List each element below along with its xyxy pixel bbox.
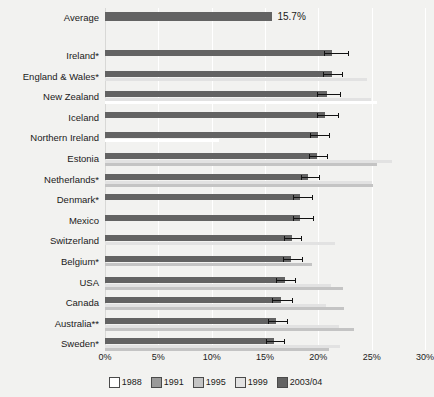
bar-group: [105, 132, 425, 148]
bar-group: [105, 91, 425, 107]
bar-2003-04: [105, 277, 285, 283]
error-bar-cap-low: [272, 298, 273, 303]
bar-1995: [105, 287, 343, 290]
bar-group: [105, 235, 425, 251]
error-bar-cap-high: [302, 257, 303, 262]
bar-group: [105, 256, 425, 272]
bar-group: [105, 153, 425, 169]
category-label-average: Average: [0, 13, 99, 23]
bar-2003-04: [105, 132, 318, 138]
error-bar-cap-low: [310, 133, 311, 138]
error-bar-line: [310, 135, 329, 136]
error-bar-line: [266, 341, 284, 342]
category-label: New Zealand: [0, 92, 99, 102]
bar-group: [105, 215, 425, 231]
bar-group: [105, 297, 425, 313]
bar-group: [105, 277, 425, 293]
x-tick-label: 20%: [309, 352, 327, 362]
bar-2003-04: [105, 112, 325, 118]
plot-area: 15.7%: [105, 8, 425, 350]
x-tick-label: 10%: [203, 352, 221, 362]
error-bar-cap-high: [327, 154, 328, 159]
bar-1988: [105, 139, 219, 142]
category-label: Iceland: [0, 113, 99, 123]
bar-1999: [105, 78, 367, 81]
legend-label: 1991: [164, 377, 184, 387]
error-bar-cap-high: [329, 133, 330, 138]
error-bar-cap-low: [317, 113, 318, 118]
legend-swatch: [235, 377, 246, 388]
bar-1995: [105, 184, 373, 187]
bar-2003-04: [105, 338, 274, 344]
legend-item[interactable]: 1988: [109, 377, 142, 388]
error-bar-cap-low: [301, 175, 302, 180]
category-label: England & Wales*: [0, 72, 99, 82]
error-bar-cap-high: [340, 92, 341, 97]
bar-2003-04: [105, 194, 300, 200]
error-bar-line: [276, 280, 295, 281]
error-bar-cap-low: [268, 319, 269, 324]
legend-label: 2003/04: [290, 377, 323, 387]
error-bar-cap-high: [301, 236, 302, 241]
category-label: Netherlands*: [0, 175, 99, 185]
legend-label: 1995: [206, 377, 226, 387]
error-bar-cap-high: [284, 339, 285, 344]
error-bar-cap-low: [324, 51, 325, 56]
chart-legend: 19881991199519992003/04: [0, 374, 431, 390]
legend-item[interactable]: 1991: [151, 377, 184, 388]
x-tick-label: 15%: [256, 352, 274, 362]
bar-group: [105, 112, 425, 128]
category-label: Belgium*: [0, 257, 99, 267]
category-label: Northern Ireland: [0, 133, 99, 143]
bar-2003-04: [105, 215, 300, 221]
error-bar-line: [317, 115, 337, 116]
bar-1995: [105, 263, 312, 266]
error-bar-line: [309, 156, 327, 157]
x-tick-label: 30%: [416, 352, 434, 362]
bar-1999: [105, 242, 335, 245]
average-value-label: 15.7%: [277, 11, 305, 22]
error-bar-line: [284, 238, 301, 239]
legend-swatch: [193, 377, 204, 388]
error-bar-cap-high: [348, 51, 349, 56]
category-label: Ireland*: [0, 51, 99, 61]
legend-item[interactable]: 2003/04: [277, 377, 323, 388]
error-bar-cap-low: [283, 257, 284, 262]
error-bar-cap-low: [323, 72, 324, 77]
bar-2003-04: [105, 297, 281, 303]
bar-2003-04: [105, 174, 308, 180]
bar-2003-04: [105, 153, 317, 159]
error-bar-cap-high: [312, 195, 313, 200]
error-bar-cap-low: [309, 154, 310, 159]
bar-1988: [105, 101, 377, 104]
bar-2003-04: [105, 91, 327, 97]
bar-group: [105, 71, 425, 87]
error-bar-line: [323, 74, 342, 75]
error-bar-cap-low: [276, 278, 277, 283]
error-bar-cap-high: [295, 278, 296, 283]
legend-swatch: [277, 377, 288, 388]
bar-group: [105, 318, 425, 334]
average-bar: [105, 12, 272, 21]
legend-item[interactable]: 1999: [235, 377, 268, 388]
bar-group: [105, 174, 425, 190]
category-label: Australia**: [0, 319, 99, 329]
category-label: Sweden*: [0, 339, 99, 349]
legend-item[interactable]: 1995: [193, 377, 226, 388]
legend-swatch: [109, 377, 120, 388]
error-bar-cap-high: [319, 175, 320, 180]
error-bar-cap-high: [287, 319, 288, 324]
error-bar-cap-high: [292, 298, 293, 303]
bar-2003-04: [105, 318, 276, 324]
error-bar-line: [283, 259, 302, 260]
legend-label: 1988: [122, 377, 142, 387]
error-bar-cap-low: [293, 216, 294, 221]
category-label: Switzerland: [0, 236, 99, 246]
error-bar-cap-high: [313, 216, 314, 221]
error-bar-line: [324, 53, 349, 54]
error-bar-line: [317, 94, 339, 95]
error-bar-line: [293, 197, 312, 198]
error-bar-cap-low: [266, 339, 267, 344]
category-label: USA: [0, 278, 99, 288]
